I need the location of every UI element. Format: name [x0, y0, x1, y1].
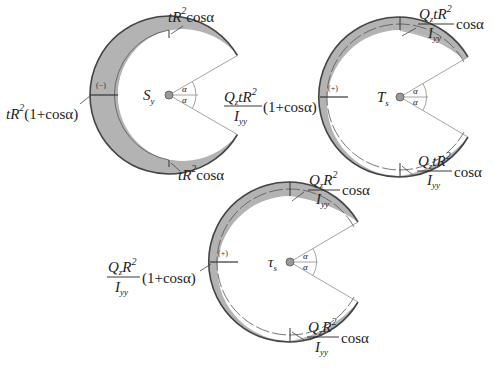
figure-tau-s: α α (+) τs QzR2 Iyy cosα QzR2 Iyy (1+cos…	[107, 169, 370, 357]
figure-ts: α α (+) Ts QztR2 Iyy cosα QztR2 Iyy cosα	[319, 3, 484, 190]
svg-text:Iyy: Iyy	[426, 172, 440, 190]
angle-alpha-lower: α	[303, 262, 308, 272]
figure-sy: α α (−) Sy tR2cosα tR2(1+cosα) tR2cosα Q…	[6, 5, 317, 183]
svg-text:QzR2: QzR2	[309, 169, 338, 190]
sign-label: (+)	[328, 84, 338, 93]
svg-text:(1+cosα): (1+cosα)	[142, 270, 196, 287]
sign-label: (−)	[96, 81, 106, 90]
shear-center-dot	[165, 91, 173, 99]
svg-text:cosα: cosα	[342, 182, 370, 198]
label-right-fraction: QztR2 Iyy (1+cosα)	[224, 86, 317, 126]
angle-alpha-lower: α	[413, 97, 418, 107]
sign-label: (+)	[218, 249, 228, 258]
angle-alpha-lower: α	[182, 95, 187, 105]
shear-center-dot	[286, 258, 294, 266]
angle-alpha-upper: α	[182, 84, 187, 94]
svg-text:Iyy: Iyy	[233, 108, 247, 126]
svg-text:Iyy: Iyy	[114, 279, 128, 297]
svg-text:cosα: cosα	[341, 330, 369, 346]
svg-text:Iyy: Iyy	[314, 339, 328, 357]
shear-center-dot	[396, 93, 404, 101]
svg-text:QzR2: QzR2	[108, 256, 137, 277]
angle-alpha-upper: α	[303, 251, 308, 261]
svg-text:QzR2: QzR2	[308, 316, 337, 337]
svg-text:QztR2: QztR2	[418, 150, 451, 171]
label-top: tR2cosα	[168, 5, 214, 25]
svg-text:QztR2: QztR2	[419, 3, 452, 24]
svg-text:cosα: cosα	[454, 164, 482, 180]
svg-text:(1+cosα): (1+cosα)	[263, 99, 317, 116]
label-left: tR2(1+cosα)	[6, 102, 78, 123]
svg-text:cosα: cosα	[456, 16, 484, 32]
shear-flow-diagram: α α (−) Sy tR2cosα tR2(1+cosα) tR2cosα Q…	[0, 0, 494, 368]
angle-alpha-upper: α	[413, 86, 418, 96]
svg-text:QztR2: QztR2	[224, 86, 257, 107]
label-left-fraction: QzR2 Iyy (1+cosα)	[107, 256, 196, 297]
